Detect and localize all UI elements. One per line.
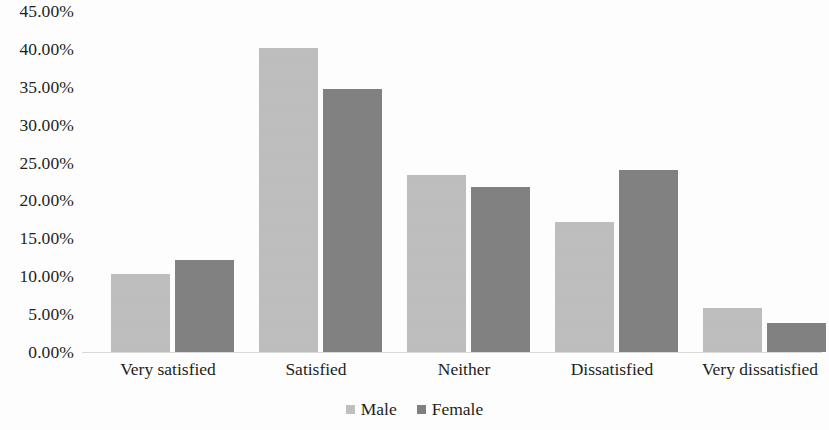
y-axis-tick-label: 5.00%	[0, 306, 74, 324]
bar-male-dissatisfied	[555, 222, 614, 352]
bar-male-satisfied	[259, 48, 318, 352]
y-axis-tick-label: 30.00%	[0, 117, 74, 135]
y-axis-tick-label: 45.00%	[0, 3, 74, 21]
x-axis-tick-label: Very dissatisfied	[672, 358, 829, 380]
x-axis-baseline	[82, 352, 822, 353]
y-axis-tick-label: 10.00%	[0, 268, 74, 286]
bar-female-dissatisfied	[619, 170, 678, 352]
legend-item-male[interactable]: Male	[346, 400, 397, 418]
legend-swatch-icon	[417, 405, 426, 414]
bar-female-very-satisfied	[175, 260, 234, 352]
y-axis-tick-label: 35.00%	[0, 79, 74, 97]
y-axis-tick-label: 15.00%	[0, 230, 74, 248]
bar-group	[686, 11, 829, 352]
legend-swatch-icon	[346, 405, 355, 414]
legend-label: Male	[361, 400, 397, 418]
bar-female-very-dissatisfied	[767, 323, 826, 352]
chart-legend: MaleFemale	[0, 396, 829, 422]
y-axis-tick-label: 20.00%	[0, 192, 74, 210]
bar-male-very-dissatisfied	[703, 308, 762, 352]
x-axis: Very satisfiedSatisfiedNeitherDissatisfi…	[82, 358, 829, 388]
y-axis-tick-label: 40.00%	[0, 41, 74, 59]
bar-female-neither	[471, 187, 530, 352]
bar-group	[94, 11, 242, 352]
bar-group	[538, 11, 686, 352]
bar-group	[390, 11, 538, 352]
y-axis-tick-label: 0.00%	[0, 344, 74, 362]
bar-female-satisfied	[323, 89, 382, 352]
y-axis: 45.00%40.00%35.00%30.00%25.00%20.00%15.0…	[0, 0, 82, 372]
bar-male-neither	[407, 175, 466, 352]
plot-area	[82, 12, 829, 353]
legend-item-female[interactable]: Female	[417, 400, 484, 418]
legend-label: Female	[432, 400, 484, 418]
bar-male-very-satisfied	[111, 274, 170, 352]
bar-chart: 45.00%40.00%35.00%30.00%25.00%20.00%15.0…	[0, 0, 829, 430]
bar-group	[242, 11, 390, 352]
y-axis-tick-label: 25.00%	[0, 155, 74, 173]
